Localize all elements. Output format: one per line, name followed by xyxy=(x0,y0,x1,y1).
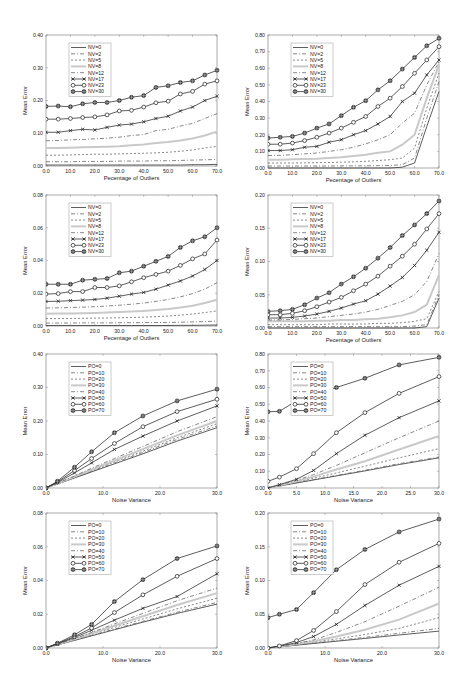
y-tick-label: 0.00 xyxy=(255,325,265,331)
legend-entry: PO=20 xyxy=(310,535,326,541)
y-tick-label: 0.50 xyxy=(255,401,265,407)
x-axis-label: Noise Variance xyxy=(334,497,373,503)
x-tick-label: 10.0 xyxy=(65,328,75,334)
x-tick-label: 30.0 xyxy=(212,650,222,656)
x-tick-label: 50.0 xyxy=(163,168,173,174)
x-tick-label: 20.0 xyxy=(90,168,100,174)
y-tick-label: 0.20 xyxy=(255,132,265,138)
y-tick-label: 0.20 xyxy=(255,451,265,457)
x-tick-label: 30.0 xyxy=(114,168,124,174)
legend: PO=0PO=10PO=20PO=30PO=40PO=50PO=60PO=70 xyxy=(291,362,333,415)
x-tick-label: 5.0 xyxy=(293,490,300,496)
x-axis-label: Pecentage of Outliers xyxy=(326,177,382,183)
y-tick-label: 0.40 xyxy=(33,32,43,38)
y-tick-label: 0.20 xyxy=(255,192,265,198)
y-tick-label: 0.04 xyxy=(33,577,43,583)
x-tick-label: 20.0 xyxy=(312,330,322,336)
y-tick-label: 0.40 xyxy=(255,98,265,104)
x-tick-label: 30.0 xyxy=(336,170,346,176)
legend-entry: PO=20 xyxy=(88,535,104,541)
x-tick-label: 20.0 xyxy=(377,490,387,496)
legend-entry: NV=0 xyxy=(310,44,323,50)
legend-entry: NV=8 xyxy=(88,223,101,229)
y-tick-label: 0.40 xyxy=(33,351,43,357)
x-tick-label: 20.0 xyxy=(377,650,387,656)
legend-entry: NV=12 xyxy=(310,230,326,236)
y-tick-label: 0.06 xyxy=(33,225,43,231)
legend-entry: NV=5 xyxy=(88,57,101,63)
chart-p6: 0.05.010.015.020.025.030.00.000.100.200.… xyxy=(244,351,444,503)
x-tick-label: 0.0 xyxy=(264,330,271,336)
y-axis-label: Mean Error xyxy=(22,566,28,595)
x-tick-label: 60.0 xyxy=(188,168,198,174)
x-tick-label: 0.0 xyxy=(264,170,271,176)
y-tick-label: 0.02 xyxy=(33,290,43,296)
x-axis-label: Pecentage of Outliers xyxy=(104,175,160,181)
x-tick-label: 10.0 xyxy=(287,170,297,176)
legend-entry: NV=17 xyxy=(88,236,104,242)
x-tick-label: 50.0 xyxy=(385,170,395,176)
legend-entry: NV=0 xyxy=(88,44,101,50)
legend-entry: PO=10 xyxy=(88,529,104,535)
y-tick-label: 0.05 xyxy=(255,611,265,617)
legend-entry: PO=30 xyxy=(88,382,104,388)
legend: NV=0NV=2NV=5NV=8NV=12NV=17NV=23NV=30 xyxy=(69,203,111,256)
y-tick-label: 0.00 xyxy=(255,165,265,171)
y-tick-label: 0.04 xyxy=(33,257,43,263)
x-tick-label: 70.0 xyxy=(212,328,222,334)
legend-entry: NV=5 xyxy=(88,217,101,223)
legend-entry: NV=12 xyxy=(88,70,104,76)
x-tick-label: 30.0 xyxy=(114,328,124,334)
legend: NV=0NV=2NV=5NV=8NV=12NV=17NV=23NV=30 xyxy=(291,203,333,256)
y-tick-label: 0.00 xyxy=(33,485,43,491)
x-tick-label: 15.0 xyxy=(348,490,358,496)
y-tick-label: 0.30 xyxy=(255,115,265,121)
legend-entry: NV=0 xyxy=(310,204,323,210)
y-tick-label: 0.30 xyxy=(255,435,265,441)
x-axis-label: Pecentage of Outliers xyxy=(326,337,382,343)
x-tick-label: 40.0 xyxy=(361,170,371,176)
y-tick-label: 0.10 xyxy=(255,468,265,474)
y-tick-label: 0.00 xyxy=(255,645,265,651)
x-tick-label: 60.0 xyxy=(410,330,420,336)
y-tick-label: 0.40 xyxy=(255,418,265,424)
legend-entry: PO=20 xyxy=(310,376,326,382)
y-axis-label: Mean Error xyxy=(22,406,28,435)
legend-entry: PO=40 xyxy=(88,548,104,554)
legend-entry: PO=10 xyxy=(88,370,104,376)
chart-p7: 0.010.020.030.00.000.020.040.060.08Noise… xyxy=(22,510,222,663)
x-tick-label: 20.0 xyxy=(312,170,322,176)
x-tick-label: 50.0 xyxy=(163,328,173,334)
legend-entry: PO=30 xyxy=(88,541,104,547)
x-tick-label: 70.0 xyxy=(434,330,444,336)
legend-entry: PO=30 xyxy=(310,541,326,547)
x-tick-label: 40.0 xyxy=(139,328,149,334)
x-tick-label: 10.0 xyxy=(320,490,330,496)
y-tick-label: 0.20 xyxy=(255,510,265,516)
y-axis-label: Mean Error xyxy=(244,566,250,595)
y-tick-label: 0.20 xyxy=(33,418,43,424)
legend-entry: PO=50 xyxy=(88,395,104,401)
y-tick-label: 0.50 xyxy=(255,82,265,88)
x-tick-label: 20.0 xyxy=(155,490,165,496)
legend-entry: NV=23 xyxy=(310,82,326,88)
legend-entry: PO=10 xyxy=(310,529,326,535)
x-tick-label: 50.0 xyxy=(385,330,395,336)
y-tick-label: 0.60 xyxy=(255,65,265,71)
y-tick-label: 0.08 xyxy=(33,510,43,516)
legend-entry: PO=60 xyxy=(310,401,326,407)
chart-p1: 0.010.020.030.040.050.060.070.00.000.100… xyxy=(22,32,222,181)
x-tick-label: 70.0 xyxy=(212,168,222,174)
chart-p3: 0.010.020.030.040.050.060.070.00.000.020… xyxy=(22,192,222,341)
legend-entry: NV=0 xyxy=(88,204,101,210)
x-tick-label: 10.0 xyxy=(320,650,330,656)
y-tick-label: 0.30 xyxy=(33,65,43,71)
legend-entry: NV=2 xyxy=(88,51,101,57)
x-tick-label: 20.0 xyxy=(90,328,100,334)
legend-entry: NV=30 xyxy=(88,248,104,254)
legend-entry: PO=70 xyxy=(88,566,104,572)
chart-p2: 0.010.020.030.040.050.060.070.00.000.100… xyxy=(244,32,444,183)
legend-entry: NV=17 xyxy=(88,76,104,82)
y-tick-label: 0.10 xyxy=(33,130,43,136)
y-tick-label: 0.20 xyxy=(33,97,43,103)
